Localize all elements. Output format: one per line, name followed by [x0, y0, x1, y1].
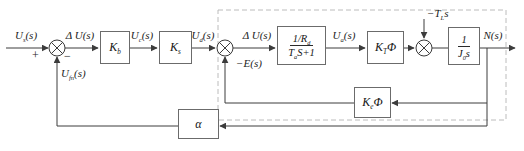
signal-label-input: Us(s)	[8, 29, 44, 41]
block-armature-circuit: 1/Rd TaS+1	[277, 26, 326, 65]
signal-label-speed-feedback: Ufn(s)	[61, 67, 86, 79]
signal-label-back-emf: −E(s)	[231, 57, 267, 69]
minus-sign: −	[64, 51, 71, 61]
block-rectifier-label: Ks	[170, 40, 181, 55]
block-armature-circuit-denominator: TaS+1	[288, 46, 315, 58]
signal-label-error2: Δ U(s)	[236, 29, 278, 41]
block-emf-constant-label: KeΦ	[362, 95, 382, 110]
summing-junction-3	[416, 40, 432, 56]
block-inertia-denominator: J0s	[458, 47, 470, 59]
block-feedback-gain: α	[178, 109, 219, 139]
signal-label-output: N(s)	[479, 29, 507, 41]
block-torque-constant-label: KTΦ	[375, 40, 396, 55]
block-torque-constant: KTΦ	[367, 31, 404, 64]
block-diagram-figure: Kb Ks 1/Rd TaS+1 KTΦ 1 J0s KeΦ α Us(s) +…	[0, 0, 524, 151]
block-rectifier: Ks	[159, 31, 192, 64]
plus-sign: +	[32, 50, 39, 60]
signal-label-error1: Δ U(s)	[60, 29, 100, 41]
signal-label-armature: Ua(s)	[327, 29, 361, 41]
summing-junction-2	[217, 40, 233, 56]
block-emf-constant: KeΦ	[354, 87, 391, 118]
block-amplifier-label: Kb	[109, 40, 121, 55]
block-armature-circuit-numerator: 1/Rd	[290, 33, 314, 46]
signal-label-rectified: Ud(s)	[189, 29, 217, 41]
block-feedback-gain-label: α	[195, 117, 201, 132]
summing-junction-1	[49, 40, 65, 56]
block-inertia-numerator: 1	[458, 34, 469, 47]
signal-label-control: Uc(s)	[127, 29, 157, 41]
block-inertia: 1 J0s	[448, 27, 480, 65]
block-amplifier: Kb	[100, 31, 130, 64]
signal-label-load-torque: −TLs	[427, 7, 449, 19]
